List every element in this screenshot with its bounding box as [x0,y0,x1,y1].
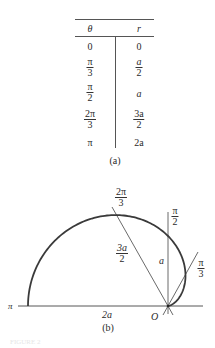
figure-footer: FIGURE 2 [10,337,41,347]
length-label-a: a [159,256,164,266]
origin-label: O [151,312,158,322]
denominator: 3 [199,269,204,279]
angle-label-pi-3: π 3 [197,258,204,279]
cardioid-plot [0,0,215,348]
denominator: 2 [173,217,178,227]
angle-label-2pi-3: 2π 3 [115,187,127,208]
ray-below-left [168,306,173,315]
length-label-3a-2: 3a 2 [116,243,128,264]
denominator: 2 [120,254,125,264]
origin-point [167,305,170,308]
angle-label-pi-2: π 2 [171,206,178,227]
axis-length-label: 2a [102,310,112,320]
diagram-caption: (b) [102,322,114,333]
denominator: 3 [119,198,124,208]
axis-pi-label: π [8,301,13,311]
